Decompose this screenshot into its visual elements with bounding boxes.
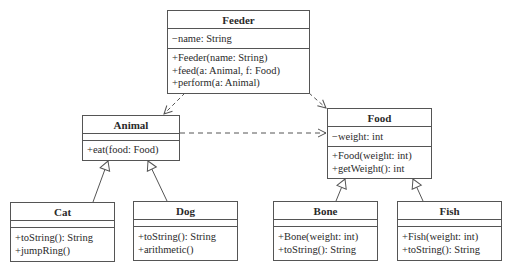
operation: +perform(a: Animal) xyxy=(172,77,309,90)
attribute: −weight: int xyxy=(332,130,431,143)
operation: +toString(): String xyxy=(138,231,237,244)
class-name: Animal xyxy=(83,116,179,134)
class-feeder: Feeder −name: String +Feeder(name: Strin… xyxy=(167,10,310,94)
class-attributes xyxy=(11,221,114,228)
operation: +toString(): String xyxy=(15,232,114,245)
class-operations: +Feeder(name: String) +feed(a: Animal, f… xyxy=(168,49,309,90)
class-attributes xyxy=(274,220,377,227)
class-animal: Animal +eat(food: Food) xyxy=(82,115,180,161)
operation: +Fish(weight: int) xyxy=(402,231,501,244)
operation: +getWeight(): int xyxy=(332,163,431,176)
generalization-cat-animal xyxy=(93,161,108,202)
class-fish: Fish +Fish(weight: int) +toString(): Str… xyxy=(397,201,502,261)
class-attributes: −weight: int xyxy=(328,127,431,147)
class-bone: Bone +Bone(weight: int) +toString(): Str… xyxy=(273,201,378,261)
class-attributes xyxy=(398,220,501,227)
operation: +arithmetic() xyxy=(138,244,237,257)
class-name: Fish xyxy=(398,202,501,220)
generalization-fish-food xyxy=(413,179,423,201)
class-attributes: −name: String xyxy=(168,29,309,49)
operation: +feed(a: Animal, f: Food) xyxy=(172,65,309,78)
class-food: Food −weight: int +Food(weight: int) +ge… xyxy=(327,108,432,179)
class-name: Bone xyxy=(274,202,377,220)
class-operations: +toString(): String +arithmetic() xyxy=(134,227,237,256)
dependency-feeder-food xyxy=(309,93,326,108)
attribute: −name: String xyxy=(172,32,309,45)
generalization-bone-food xyxy=(336,179,345,201)
class-operations: +toString(): String +jumpRing() xyxy=(11,228,114,257)
class-attributes xyxy=(83,134,179,141)
class-name: Food xyxy=(328,109,431,127)
class-cat: Cat +toString(): String +jumpRing() xyxy=(10,202,115,262)
operation: +Food(weight: int) xyxy=(332,150,431,163)
class-attributes xyxy=(134,220,237,227)
class-name: Cat xyxy=(11,203,114,221)
operation: +jumpRing() xyxy=(15,245,114,258)
dependency-feeder-animal xyxy=(164,93,185,114)
class-operations: +eat(food: Food) xyxy=(83,141,179,157)
class-operations: +Bone(weight: int) +toString(): String xyxy=(274,227,377,256)
operation: +eat(food: Food) xyxy=(87,144,179,157)
operation: +toString(): String xyxy=(402,244,501,257)
operation: +Feeder(name: String) xyxy=(172,52,309,65)
class-operations: +Fish(weight: int) +toString(): String xyxy=(398,227,501,256)
class-dog: Dog +toString(): String +arithmetic() xyxy=(133,201,238,261)
generalization-dog-animal xyxy=(148,161,167,201)
operation: +toString(): String xyxy=(278,244,377,257)
class-operations: +Food(weight: int) +getWeight(): int xyxy=(328,147,431,175)
class-name: Dog xyxy=(134,202,237,220)
class-name: Feeder xyxy=(168,11,309,29)
operation: +Bone(weight: int) xyxy=(278,231,377,244)
